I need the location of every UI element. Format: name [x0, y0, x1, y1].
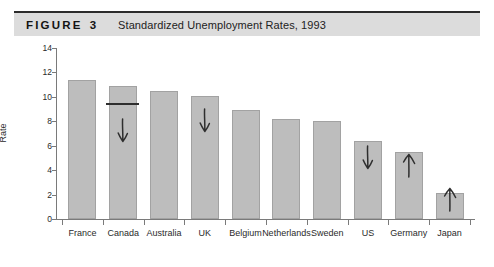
y-axis-tick-mark	[52, 72, 57, 73]
bar	[272, 119, 300, 219]
x-axis-tick-mark	[225, 220, 226, 225]
x-axis-label-netherlands: Netherlands	[262, 228, 311, 238]
y-axis-tick-mark	[52, 219, 57, 220]
x-axis-tick-mark	[348, 220, 349, 225]
x-axis-tick-mark	[266, 220, 267, 225]
y-axis-tick-label: 14	[0, 43, 52, 53]
x-axis-label-canada: Canada	[107, 228, 139, 238]
figure-header-band: FIGURE 3 Standardized Unemployment Rates…	[14, 11, 480, 36]
y-axis-tick-mark	[52, 121, 57, 122]
x-axis-label-us: US	[362, 228, 375, 238]
y-axis-title: Rate	[0, 123, 8, 142]
x-axis-tick-mark	[62, 220, 63, 225]
y-axis-tick-label: 2	[0, 190, 52, 200]
y-axis-tick-label: 4	[0, 165, 52, 175]
x-axis-tick-mark	[184, 220, 185, 225]
figure-number: 3	[90, 19, 96, 31]
y-axis-tick-mark	[52, 48, 57, 49]
y-axis-tick-mark	[52, 97, 57, 98]
bar	[68, 80, 96, 219]
bar	[150, 91, 178, 219]
x-axis-label-france: France	[68, 228, 96, 238]
x-axis-label-belgium: Belgium	[229, 228, 262, 238]
x-axis-tick-mark	[470, 220, 471, 225]
x-axis-tick-mark	[388, 220, 389, 225]
y-axis-tick-label: 0	[0, 214, 52, 224]
bar	[354, 141, 382, 219]
y-axis-tick-label: 6	[0, 141, 52, 151]
x-axis-tick-mark	[103, 220, 104, 225]
figure-title: Standardized Unemployment Rates, 1993	[118, 19, 326, 31]
bar-chart: Rate 02468101214 FranceCanadaAustraliaUK…	[0, 36, 494, 267]
y-axis-tick-label: 12	[0, 67, 52, 77]
x-axis-tick-mark	[307, 220, 308, 225]
x-axis-label-uk: UK	[199, 228, 212, 238]
x-axis-label-australia: Australia	[146, 228, 181, 238]
bar	[313, 121, 341, 219]
annotation-line-canada	[106, 103, 139, 105]
y-axis-tick-label: 10	[0, 92, 52, 102]
bar	[436, 193, 464, 219]
x-axis-tick-mark	[144, 220, 145, 225]
x-axis-tick-mark	[429, 220, 430, 225]
y-axis-tick-label: 8	[0, 116, 52, 126]
bar	[109, 86, 137, 219]
y-axis-tick-mark	[52, 170, 57, 171]
bar	[232, 110, 260, 219]
y-axis-line	[56, 48, 57, 219]
x-axis-label-japan: Japan	[437, 228, 462, 238]
y-axis-tick-mark	[52, 195, 57, 196]
figure-label: FIGURE	[26, 19, 83, 31]
x-axis-label-sweden: Sweden	[311, 228, 344, 238]
x-axis-label-germany: Germany	[390, 228, 427, 238]
bar	[191, 96, 219, 219]
y-axis-tick-mark	[52, 146, 57, 147]
bar	[395, 152, 423, 219]
